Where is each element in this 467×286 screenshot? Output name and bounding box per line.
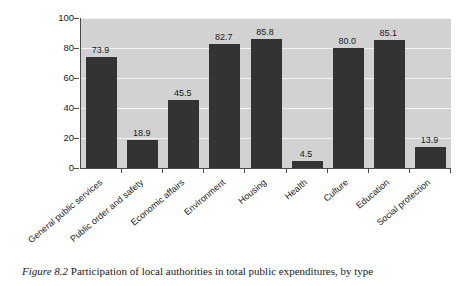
y-axis-tick-mark — [74, 18, 79, 19]
bar-value-label: 82.7 — [204, 32, 244, 42]
bar-value-label: 85.8 — [245, 27, 285, 37]
bar-value-label: 18.9 — [122, 128, 162, 138]
y-axis-tick-label: 100 — [48, 12, 74, 23]
y-axis-tick-mark — [74, 168, 79, 169]
gridline — [81, 18, 451, 19]
bar-value-label: 73.9 — [81, 45, 121, 55]
y-axis-tick-label: 0 — [48, 162, 74, 173]
figure-container: 100806040200 Figure 8.2 Participation of… — [0, 0, 467, 286]
bar — [333, 48, 364, 168]
x-axis-tick-mark — [203, 169, 204, 173]
x-axis-tick-mark — [327, 169, 328, 173]
bar-value-label: 4.5 — [286, 149, 326, 159]
y-axis-tick-mark — [74, 78, 79, 79]
bar-value-label: 13.9 — [409, 135, 449, 145]
plot-area — [80, 18, 451, 169]
x-axis-tick-mark — [244, 169, 245, 173]
bar — [86, 57, 117, 168]
y-axis-tick-mark — [74, 48, 79, 49]
bar — [374, 40, 405, 168]
x-axis-tick-mark — [121, 169, 122, 173]
bar — [415, 147, 446, 168]
bar-value-label: 45.5 — [163, 88, 203, 98]
x-axis-tick-mark — [286, 169, 287, 173]
y-axis-tick-label: 60 — [48, 72, 74, 83]
y-axis-tick-mark — [74, 108, 79, 109]
x-axis-tick-mark — [409, 169, 410, 173]
bar — [209, 44, 240, 168]
y-axis-tick-mark — [74, 138, 79, 139]
x-axis-tick-mark — [162, 169, 163, 173]
y-axis-tick-label: 20 — [48, 132, 74, 143]
y-axis-tick-label: 40 — [48, 102, 74, 113]
x-axis-tick-mark — [368, 169, 369, 173]
bar — [251, 39, 282, 168]
bar-value-label: 85.1 — [368, 28, 408, 38]
bar — [292, 161, 323, 168]
y-axis-tick-label: 80 — [48, 42, 74, 53]
bar — [127, 140, 158, 168]
bar-value-label: 80.0 — [327, 36, 367, 46]
bar — [168, 100, 199, 168]
x-axis-tick-mark — [450, 169, 451, 173]
